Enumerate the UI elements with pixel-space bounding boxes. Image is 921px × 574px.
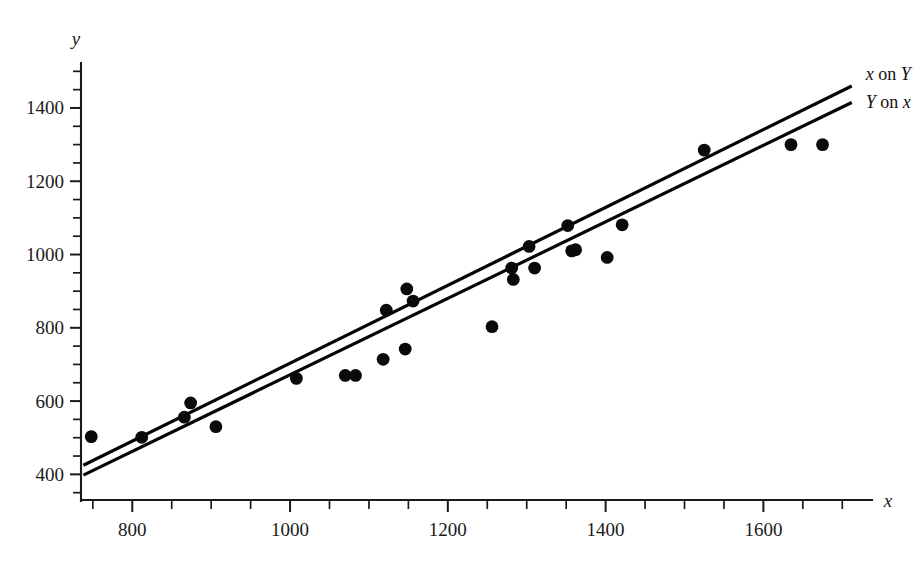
x-tick-label: 1600 xyxy=(744,519,782,540)
data-point xyxy=(528,262,541,275)
data-point xyxy=(399,343,412,356)
regression-lines-group xyxy=(83,86,851,475)
x-tick-label: 1200 xyxy=(429,519,467,540)
data-point xyxy=(523,240,536,253)
data-point xyxy=(349,369,362,382)
data-point xyxy=(486,320,499,333)
scatter-plot-with-regression-lines: 400600800100012001400 y 8001000120014001… xyxy=(0,0,921,574)
series-label-part: x xyxy=(902,92,911,112)
data-point xyxy=(561,219,574,232)
y-axis-ticks xyxy=(70,71,81,492)
series-labels-group: x on YY on x xyxy=(865,64,913,112)
data-point xyxy=(601,251,614,264)
regression-line-x-on-y xyxy=(83,86,851,465)
data-point xyxy=(698,144,711,157)
data-point xyxy=(569,243,582,256)
series-label-y-on-x: Y on x xyxy=(866,92,911,112)
y-tick-label: 600 xyxy=(36,391,65,412)
data-point xyxy=(85,430,98,443)
data-point xyxy=(505,262,518,275)
series-label-part: on xyxy=(876,92,903,112)
data-point xyxy=(135,431,148,444)
y-axis-title: y xyxy=(70,28,81,49)
series-label-part: x xyxy=(865,64,874,84)
y-tick-label: 1000 xyxy=(26,244,64,265)
y-axis-tick-labels: 400600800100012001400 xyxy=(26,97,64,484)
y-tick-label: 800 xyxy=(36,317,65,338)
data-point xyxy=(184,397,197,410)
data-point xyxy=(380,304,393,317)
data-point xyxy=(377,353,390,366)
x-axis-tick-labels: 8001000120014001600 xyxy=(118,519,782,540)
y-tick-label: 1400 xyxy=(26,97,64,118)
x-tick-label: 800 xyxy=(118,519,147,540)
data-point xyxy=(400,283,413,296)
data-point xyxy=(507,273,520,286)
regression-line-y-on-x xyxy=(83,102,851,475)
data-point xyxy=(210,420,223,433)
x-tick-label: 1000 xyxy=(271,519,309,540)
data-point xyxy=(178,411,191,424)
figure-container: 400600800100012001400 y 8001000120014001… xyxy=(0,0,921,574)
series-label-part: on xyxy=(874,64,901,84)
y-tick-label: 1200 xyxy=(26,171,64,192)
scatter-points-group xyxy=(85,138,829,444)
x-axis-group: 8001000120014001600 x xyxy=(81,490,893,540)
data-point xyxy=(816,138,829,151)
data-point xyxy=(407,295,420,308)
x-axis-title: x xyxy=(883,490,893,511)
y-axis-group: 400600800100012001400 y xyxy=(26,28,81,501)
data-point xyxy=(290,372,303,385)
data-point xyxy=(616,218,629,231)
y-tick-label: 400 xyxy=(36,464,65,485)
series-label-part: Y xyxy=(901,64,913,84)
series-label-x-on-y: x on Y xyxy=(865,64,913,84)
data-point xyxy=(785,138,798,151)
figure-caption xyxy=(8,552,248,570)
x-tick-label: 1400 xyxy=(587,519,625,540)
x-axis-ticks xyxy=(93,500,842,512)
